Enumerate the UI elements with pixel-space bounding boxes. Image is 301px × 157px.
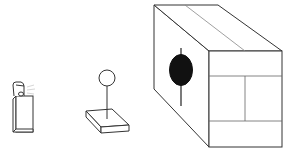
large-box	[154, 5, 282, 147]
platform-with-ball	[86, 70, 129, 133]
illustration	[0, 0, 301, 157]
small-lighter	[13, 82, 35, 132]
dark-oval-marking	[170, 55, 193, 86]
